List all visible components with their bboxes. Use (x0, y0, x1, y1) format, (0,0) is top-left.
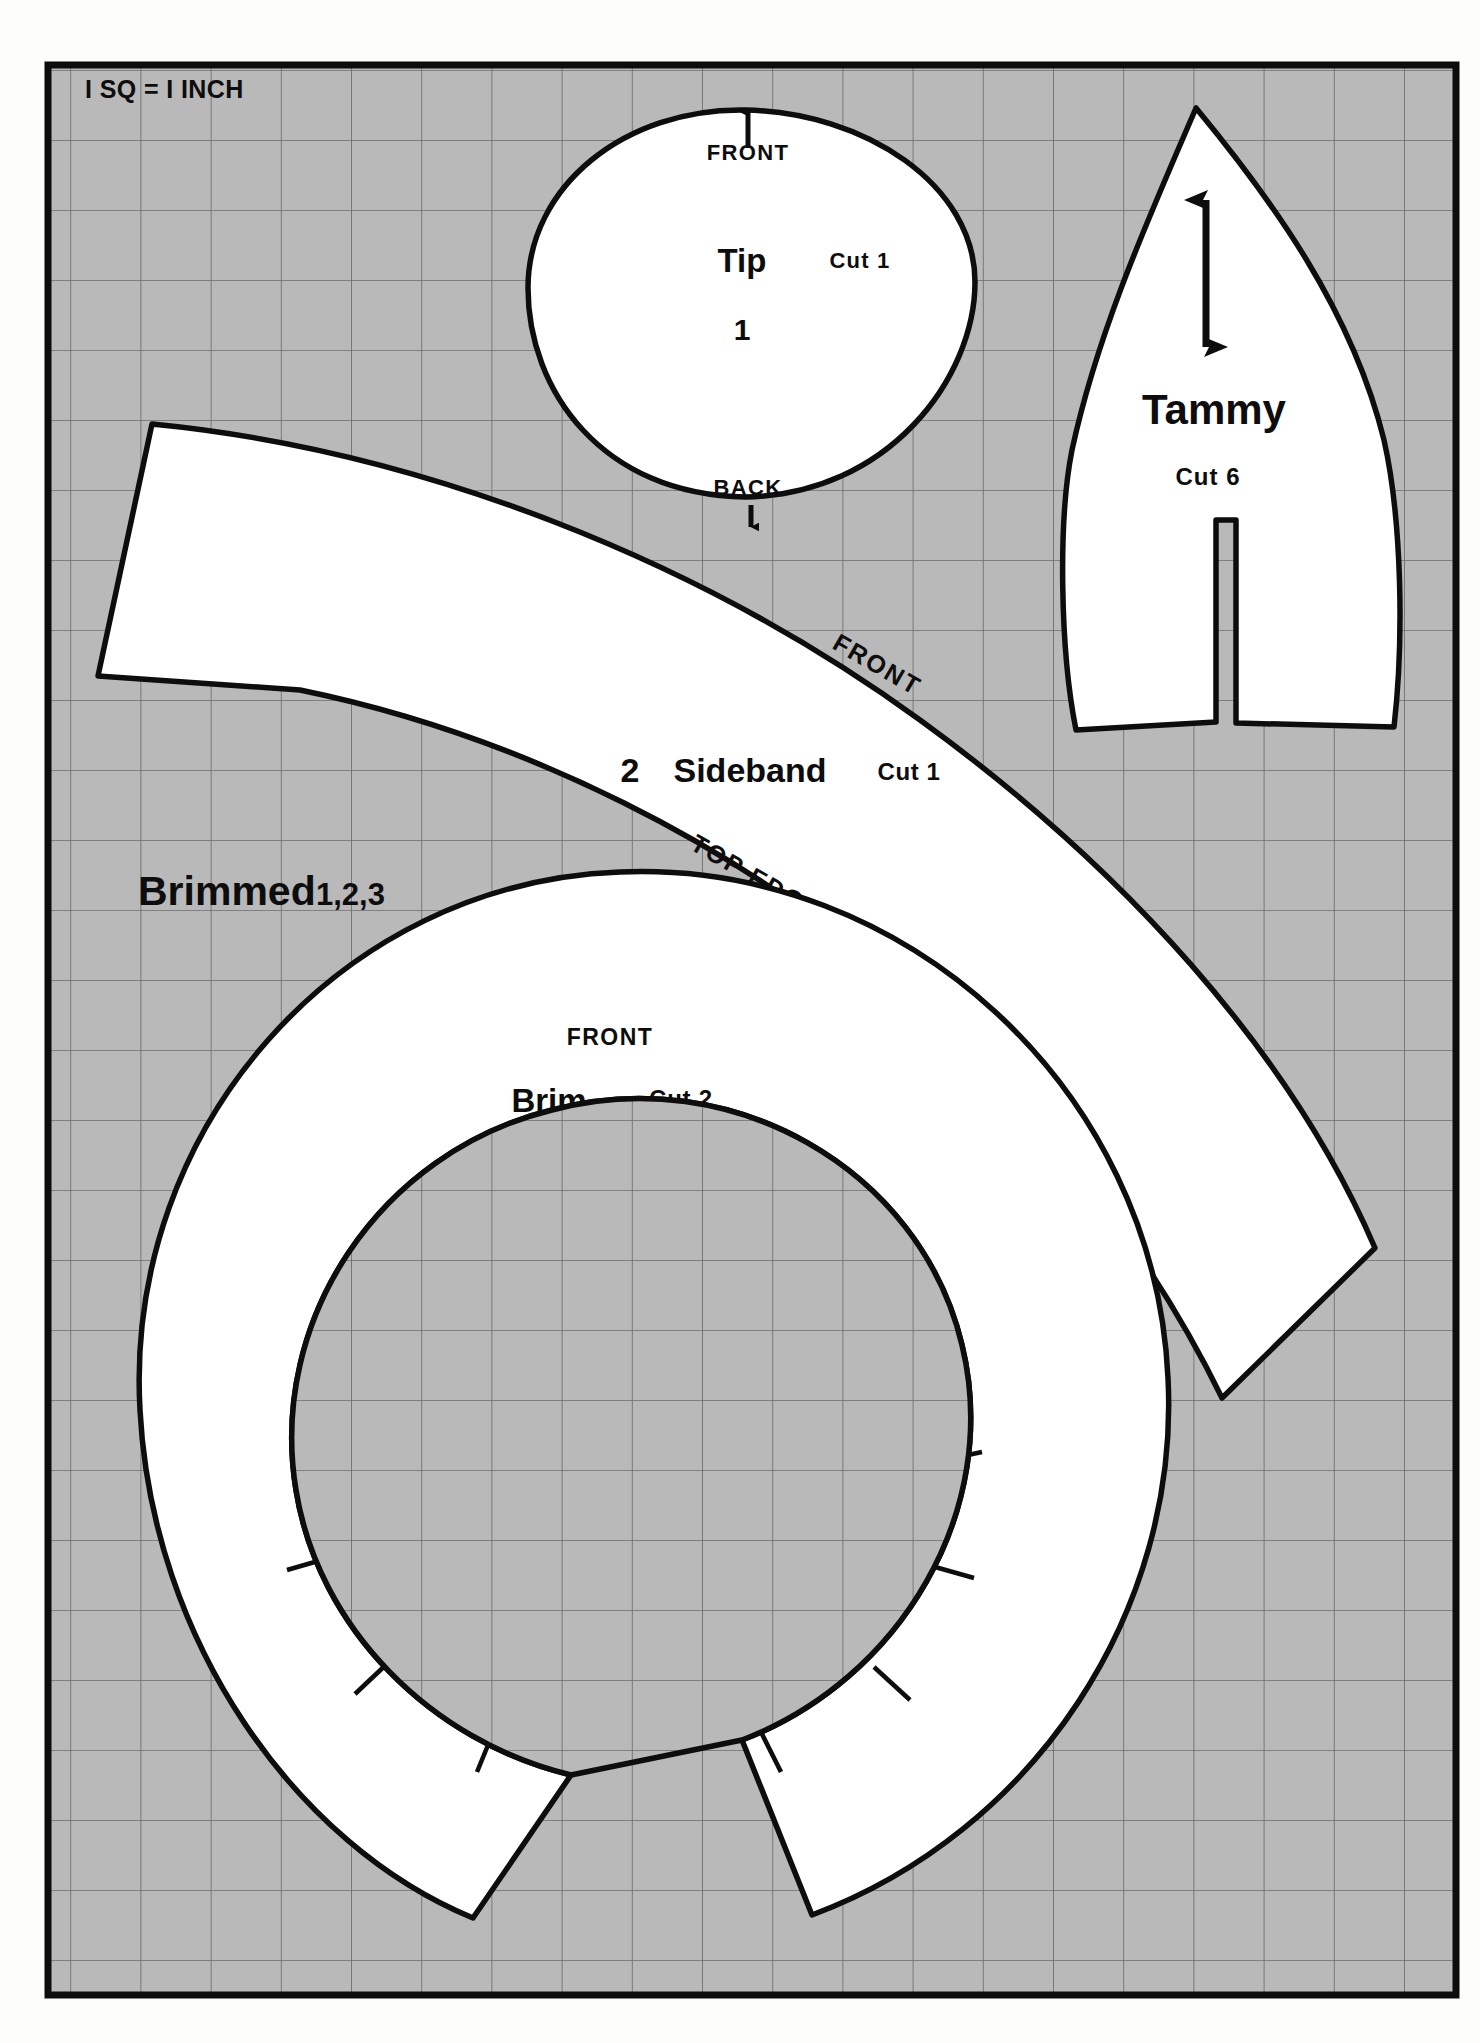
sideband-piece-name: Sideband (673, 751, 826, 789)
pattern-title-main: Brimmed (138, 868, 316, 914)
tip-front-label: FRONT (707, 140, 789, 165)
sideband-piece-number: 2 (621, 751, 640, 789)
tammy-cut-label: Cut 6 (1176, 463, 1241, 490)
pattern-title-suffix: 1,2,3 (316, 877, 385, 912)
brim-front-label: FRONT (567, 1024, 654, 1050)
sideband-cut-label: Cut 1 (878, 758, 941, 785)
tip-piece-number: 1 (734, 313, 751, 346)
tammy-piece-name: Tammy (1142, 386, 1287, 433)
tip-cut-label: Cut 1 (830, 248, 891, 273)
scale-legend: I SQ = I INCH (85, 75, 244, 103)
pattern-sheet: FRONT Tip Cut 1 1 BACK Tammy Cut 6 FRONT… (0, 0, 1480, 2043)
tip-piece-name: Tip (718, 242, 767, 279)
tip-back-label: BACK (714, 475, 783, 500)
pattern-drawing: FRONT Tip Cut 1 1 BACK Tammy Cut 6 FRONT… (0, 0, 1480, 2043)
